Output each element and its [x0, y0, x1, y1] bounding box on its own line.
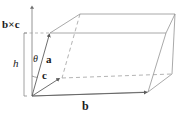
label-vector-c: c: [42, 70, 47, 81]
edge-right-front: [148, 33, 166, 92]
height-bracket: [24, 33, 27, 96]
edge-top-right: [166, 14, 175, 33]
figure-canvas: [0, 0, 184, 118]
angle-theta-arc: [32, 76, 38, 78]
label-b-cross-c: b×c: [2, 19, 20, 30]
label-vector-a: a: [46, 54, 52, 65]
edge-bottom-right: [148, 74, 172, 92]
edge-hidden-back-bottom: [62, 74, 172, 78]
parallelepiped-figure: b×c h θ a c b: [0, 0, 184, 118]
vector-b-arrow: [32, 92, 146, 96]
label-height: h: [13, 58, 19, 69]
edge-right-back: [172, 14, 175, 74]
label-angle-theta: θ: [33, 54, 38, 64]
label-vector-b: b: [82, 100, 89, 112]
